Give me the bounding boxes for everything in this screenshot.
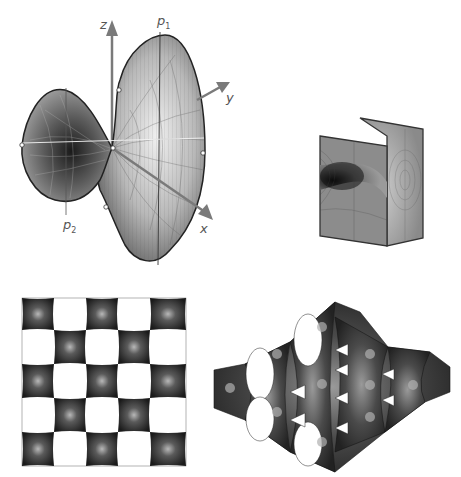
point-bottom	[104, 205, 108, 209]
p2-label: p2	[63, 218, 76, 235]
periodic-lattice-panel	[210, 292, 460, 477]
two-plane-graphic	[310, 110, 430, 250]
periodic-lattice-graphic	[210, 292, 460, 477]
point-top	[117, 88, 121, 92]
checkerboard-graphic	[20, 296, 188, 468]
p1-label: p1	[157, 14, 170, 31]
checkerboard-tiling-panel	[20, 296, 188, 468]
point-left	[20, 143, 24, 147]
z-axis-arrowhead-icon	[106, 20, 118, 36]
x-axis-arrowhead-icon	[198, 204, 213, 220]
two-plane-surface-panel	[310, 110, 430, 250]
saddle-surface-graphic	[0, 0, 240, 280]
y-axis-label: y	[226, 91, 234, 104]
checker-cells	[22, 298, 186, 466]
z-axis-label: z	[100, 18, 107, 31]
saddle-surface-panel: z y x p1 p2	[0, 0, 240, 280]
point-origin	[111, 146, 115, 150]
point-right	[201, 151, 205, 155]
x-axis-label: x	[200, 222, 208, 235]
